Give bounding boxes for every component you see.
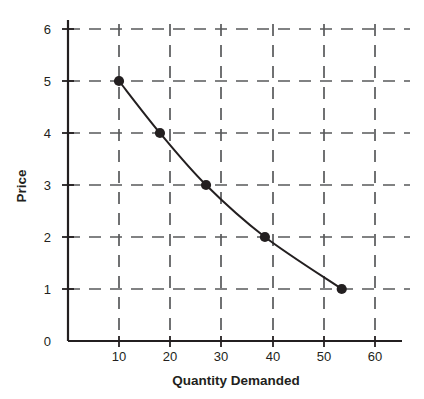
- chart-background: [0, 0, 424, 399]
- x-axis-title: Quantity Demanded: [172, 373, 300, 388]
- x-tick-label-10: 10: [112, 349, 126, 364]
- x-tick-label-20: 20: [163, 349, 177, 364]
- data-point-2: [155, 128, 165, 138]
- x-tick-label-30: 30: [214, 349, 228, 364]
- y-tick-label-2: 2: [44, 230, 51, 245]
- demand-curve-chart: 6 5 4 3 2 1 0 10 20 30 40 50 60 Quantity…: [0, 0, 424, 399]
- data-point-5: [337, 284, 347, 294]
- data-point-3: [201, 180, 211, 190]
- data-point-4: [260, 232, 270, 242]
- y-tick-label-4: 4: [44, 126, 51, 141]
- x-tick-label-50: 50: [317, 349, 331, 364]
- y-tick-label-6: 6: [44, 22, 51, 37]
- y-axis-title: Price: [14, 169, 29, 203]
- y-tick-label-1: 1: [44, 282, 51, 297]
- y-tick-label-0: 0: [44, 334, 51, 349]
- x-tick-label-60: 60: [368, 349, 382, 364]
- x-tick-label-40: 40: [266, 349, 280, 364]
- data-point-1: [114, 76, 124, 86]
- y-tick-label-5: 5: [44, 74, 51, 89]
- y-tick-label-3: 3: [44, 178, 51, 193]
- chart-canvas: 6 5 4 3 2 1 0 10 20 30 40 50 60 Quantity…: [0, 0, 424, 399]
